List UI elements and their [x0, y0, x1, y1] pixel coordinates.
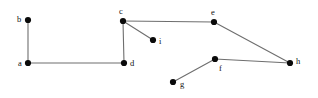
- graph-node-e: [211, 19, 217, 25]
- graph-edge-c-e: [123, 21, 214, 22]
- graph-svg: [0, 0, 318, 98]
- graph-node-label-f: f: [219, 64, 222, 73]
- graph-node-label-e: e: [211, 8, 215, 17]
- graph-node-i: [150, 37, 156, 43]
- graph-node-label-b: b: [17, 15, 21, 24]
- graph-node-a: [25, 60, 31, 66]
- graph-diagram-canvas: abcdefghi: [0, 0, 318, 98]
- graph-edge-h-f: [215, 59, 290, 63]
- graph-edge-e-h: [214, 22, 290, 63]
- graph-node-label-c: c: [119, 7, 123, 16]
- graph-node-label-i: i: [159, 37, 161, 46]
- edge-layer: [28, 20, 290, 82]
- graph-node-d: [121, 60, 127, 66]
- graph-node-h: [287, 60, 293, 66]
- node-layer: [25, 17, 293, 85]
- graph-node-label-g: g: [180, 80, 184, 89]
- graph-node-label-h: h: [296, 57, 300, 66]
- graph-node-b: [25, 17, 31, 23]
- graph-node-f: [212, 56, 218, 62]
- graph-edge-d-c: [123, 21, 124, 63]
- graph-node-c: [120, 18, 126, 24]
- graph-node-g: [170, 79, 176, 85]
- graph-node-label-d: d: [130, 59, 134, 68]
- graph-edge-c-i: [123, 21, 153, 40]
- graph-node-label-a: a: [18, 59, 22, 68]
